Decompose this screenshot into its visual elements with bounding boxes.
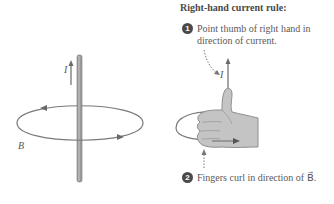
thumb-current-arrow-head-icon	[226, 58, 231, 64]
pointer-dotted-arrow-1	[204, 50, 218, 74]
wire-field-diagram	[17, 55, 143, 182]
field-label-left: B	[18, 140, 24, 151]
rule-title: Right-hand current rule:	[180, 2, 286, 13]
step-1-badge: 1	[182, 23, 193, 34]
field-arrow-right-icon	[117, 134, 124, 140]
step-1-text-line1: Point thumb of right hand in	[197, 23, 311, 34]
step-2-badge: 2	[182, 172, 193, 183]
field-arrow-left-icon	[40, 105, 47, 111]
step-2-text: Fingers curl in direction of B⃗.	[197, 172, 316, 183]
hand-diagram	[176, 50, 258, 168]
step-2: 2Fingers curl in direction of B⃗.	[182, 172, 332, 184]
step-1: 1Point thumb of right hand in direction …	[182, 23, 332, 47]
step-1-text-line2: direction of current.	[182, 35, 332, 47]
current-label-left: I	[64, 64, 67, 75]
current-arrow-head-icon	[69, 60, 74, 66]
current-label-right: I	[220, 69, 223, 80]
